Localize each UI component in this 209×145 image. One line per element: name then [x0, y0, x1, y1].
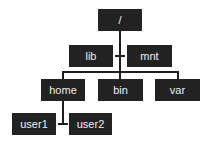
- node-user1-label: user1: [20, 118, 48, 130]
- node-user2-label: user2: [77, 118, 105, 130]
- node-user1: user1: [12, 113, 56, 135]
- node-lib-label: lib: [85, 50, 96, 62]
- node-home: home: [41, 79, 85, 101]
- node-bin-label: bin: [113, 84, 128, 96]
- edge-lib-mnt-tick: [115, 55, 125, 57]
- node-root-label: /: [118, 14, 121, 26]
- edge-user-tick: [58, 123, 68, 125]
- node-var-label: var: [170, 84, 185, 96]
- node-bin: bin: [98, 79, 143, 101]
- node-home-label: home: [49, 84, 77, 96]
- edge-home-trunk: [62, 101, 64, 125]
- edge-root-trunk: [119, 31, 121, 73]
- node-var: var: [155, 79, 200, 101]
- node-lib: lib: [69, 45, 113, 67]
- edge-to-var: [177, 71, 179, 79]
- node-mnt: mnt: [127, 45, 172, 67]
- node-root: /: [98, 9, 142, 31]
- node-mnt-label: mnt: [140, 50, 158, 62]
- node-user2: user2: [69, 113, 112, 135]
- edge-to-bin: [119, 71, 121, 79]
- edge-to-home: [62, 71, 64, 79]
